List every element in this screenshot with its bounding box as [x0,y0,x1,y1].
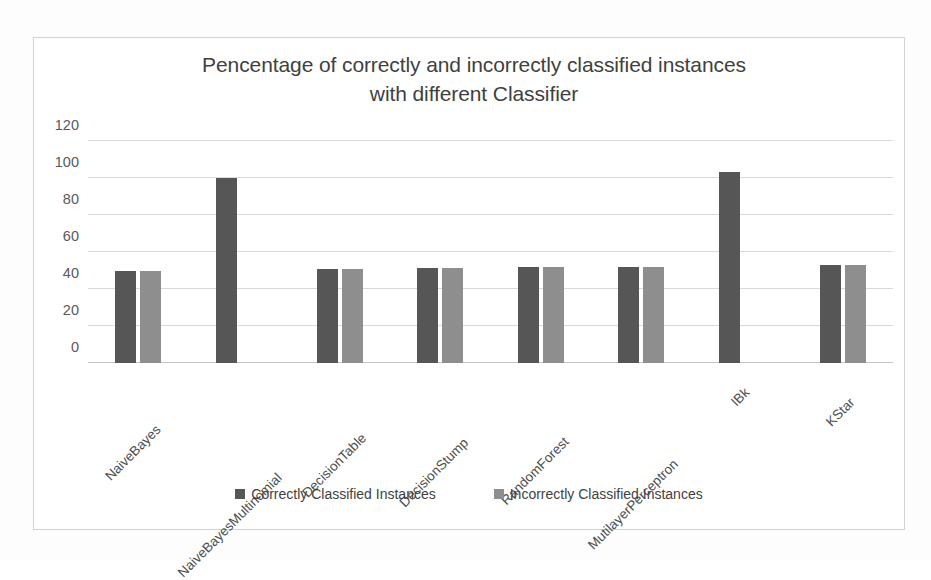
bar-group [88,141,189,363]
bar [719,172,740,363]
x-label-slot: NaiveBayesMultinomial [189,363,290,503]
bar [543,267,564,363]
x-label-slot: NaiveBayes [88,363,189,503]
chart-title-line-2: with different Classifier [104,79,844,108]
plot-area: 020406080100120 [88,141,893,363]
bar [216,178,237,363]
y-tick-label: 100 [55,154,79,170]
x-tick-label-text: MutilayerPerceptron [585,456,681,552]
x-label-slot: IBk [692,363,793,503]
x-label-slot: MutilayerPerceptron [591,363,692,503]
bar [317,269,338,363]
bar-group [390,141,491,363]
bar-group [792,141,893,363]
bar [115,271,136,364]
bar-series-container [88,141,893,363]
legend-swatch-icon [235,489,245,499]
bar [442,268,463,363]
bar [518,267,539,363]
bar [140,271,161,364]
chart-frame: Pencentage of correctly and incorrectly … [33,37,905,530]
bar-group [491,141,592,363]
y-tick-label: 80 [63,191,79,207]
y-tick-label: 20 [63,302,79,318]
bar-group [289,141,390,363]
legend-item: Correctly Classified Instances [235,486,435,502]
x-tick-label-text: KStar [823,395,857,429]
x-tick-label-text: NaiveBayes [102,422,164,484]
x-tick-label: KStar [847,371,881,405]
bar [643,267,664,363]
chart-legend: Correctly Classified InstancesIncorrectl… [34,486,904,502]
legend-swatch-icon [494,489,504,499]
x-label-slot: RandomForest [491,363,592,503]
legend-label: Incorrectly Classified Instances [510,486,703,502]
bar-group [189,141,290,363]
legend-item: Incorrectly Classified Instances [494,486,703,502]
x-axis-tick-labels: NaiveBayesNaiveBayesMultinomialDecisionT… [88,363,893,503]
y-tick-label: 40 [63,265,79,281]
bar-group [692,141,793,363]
y-tick-label: 120 [55,117,79,133]
bar-group [591,141,692,363]
bar [417,268,438,363]
bar [845,265,866,363]
bar [820,265,841,363]
bar [618,267,639,363]
chart-title: Pencentage of correctly and incorrectly … [104,50,844,108]
x-tick-label: IBk [742,371,766,395]
x-label-slot: DecisionTable [289,363,390,503]
y-tick-label: 0 [71,339,79,355]
legend-label: Correctly Classified Instances [251,486,435,502]
chart-title-line-1: Pencentage of correctly and incorrectly … [104,50,844,79]
x-label-slot: DecisionStump [390,363,491,503]
x-tick-label-text: IBk [728,385,752,409]
y-tick-label: 60 [63,228,79,244]
bar [342,269,363,363]
x-label-slot: KStar [792,363,893,503]
